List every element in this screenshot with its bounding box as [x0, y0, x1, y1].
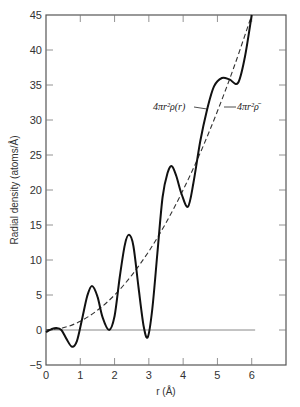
y-axis-label: Radial density (atoms/Å) [8, 136, 20, 245]
x-tick-label: 2 [112, 369, 118, 381]
x-tick-label: 3 [146, 369, 152, 381]
axis-ticks [46, 15, 286, 365]
y-tick-label: 40 [30, 44, 42, 56]
y-tick-label: −5 [29, 359, 42, 371]
plot-frame [46, 15, 286, 365]
tick-labels: 0123456−5051015202530354045 [29, 9, 254, 381]
x-tick-label: 0 [43, 369, 49, 381]
radial-density-chart: 0123456−5051015202530354045 4πr²ρ(r) 4πr… [0, 0, 300, 407]
y-tick-label: 25 [30, 149, 42, 161]
y-tick-label: 30 [30, 114, 42, 126]
y-tick-label: 0 [36, 324, 42, 336]
y-tick-label: 5 [36, 289, 42, 301]
y-tick-label: 20 [30, 184, 42, 196]
annotation-arrow [194, 107, 207, 109]
x-tick-label: 1 [77, 369, 83, 381]
x-tick-label: 5 [214, 369, 220, 381]
x-tick-label: 4 [180, 369, 186, 381]
y-tick-label: 10 [30, 254, 42, 266]
radial-density-curve [46, 15, 252, 347]
y-tick-label: 45 [30, 9, 42, 21]
y-tick-label: 15 [30, 219, 42, 231]
y-tick-label: 35 [30, 79, 42, 91]
x-tick-label: 6 [249, 369, 255, 381]
annotation-mean-density: 4πr²ρ̄ [237, 101, 262, 112]
x-axis-label: r (Å) [156, 385, 175, 397]
annotation-radial-density: 4πr²ρ(r) [153, 101, 186, 113]
mean-density-curve [46, 15, 252, 330]
